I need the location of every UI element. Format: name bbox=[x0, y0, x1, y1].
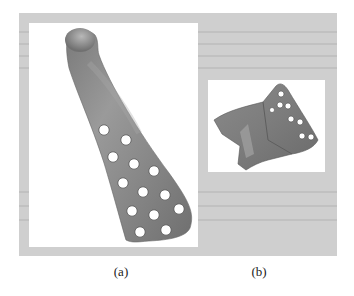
caption-a: (a) bbox=[101, 264, 141, 280]
figure: (a) (b) bbox=[0, 0, 354, 296]
bone-plate-a-image bbox=[29, 23, 198, 247]
panel-b bbox=[208, 80, 325, 172]
caption-b: (b) bbox=[239, 264, 279, 280]
bone-plate-b-image bbox=[208, 80, 325, 172]
panel-a bbox=[29, 23, 198, 247]
